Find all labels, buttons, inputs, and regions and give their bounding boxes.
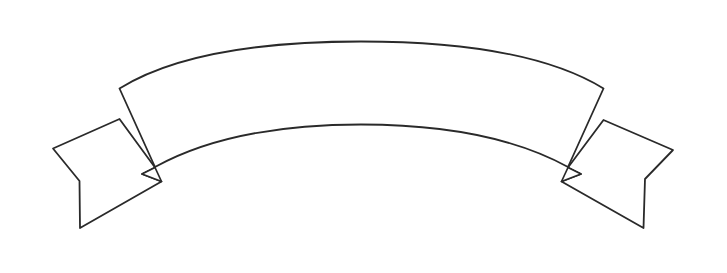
illustration-canvas <box>0 0 727 273</box>
banner-ribbon-illustration <box>0 0 727 273</box>
